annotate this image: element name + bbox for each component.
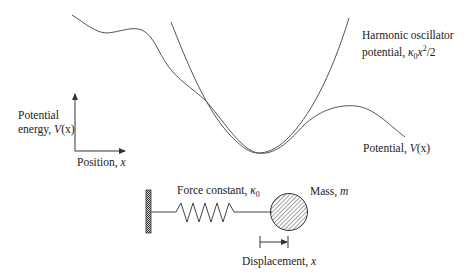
half-suffix: /2 [427, 46, 436, 58]
potential-curve [72, 15, 405, 153]
y-axis-prefix: energy, [18, 123, 54, 135]
harmonic-prefix: potential, [362, 46, 408, 58]
x-axis-prefix: Position, [77, 156, 120, 168]
y-axis-label: Potential energy, V(x) [18, 108, 75, 136]
harmonic-curve [171, 18, 349, 153]
mass [271, 194, 308, 231]
wall [146, 190, 151, 233]
y-axis-label-line1: Potential [18, 108, 75, 122]
force-constant-label: Force constant, κ0 [177, 183, 260, 197]
displacement-label: Displacement, x [242, 254, 316, 268]
mass-label: Mass, m [310, 184, 348, 198]
y-axis-label-line2: energy, V(x) [18, 122, 75, 136]
potential-label: Potential, V(x) [363, 141, 430, 155]
displacement-prefix: Displacement, [242, 255, 311, 267]
y-axis-paren: (x) [61, 123, 74, 135]
mass-variable: m [340, 185, 348, 197]
force-prefix: Force constant, [177, 184, 250, 196]
potential-prefix: Potential, [363, 142, 410, 154]
potential-V-symbol: V [410, 142, 417, 154]
harmonic-label: Harmonic oscillator potential, κ0x2/2 [362, 28, 454, 59]
potential-paren: (x) [417, 142, 430, 154]
force-kappa-subscript: 0 [256, 190, 260, 199]
spring [151, 203, 272, 222]
x-axis-label: Position, x [77, 155, 126, 169]
x-axis-variable: x [120, 156, 125, 168]
mass-prefix: Mass, [310, 185, 340, 197]
harmonic-label-line1: Harmonic oscillator [362, 28, 454, 42]
harmonic-label-line2: potential, κ0x2/2 [362, 45, 454, 59]
displacement-variable: x [311, 255, 316, 267]
